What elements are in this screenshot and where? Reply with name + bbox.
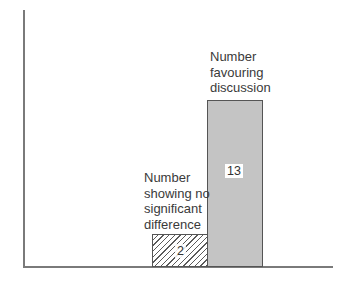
bar-value-no-significant-difference: 2 — [175, 244, 186, 258]
annotation-favouring-discussion: Number favouring discussion — [210, 49, 271, 96]
annotation-line: discussion — [210, 80, 271, 96]
annotation-line: difference — [144, 217, 210, 233]
y-axis — [23, 10, 25, 267]
annotation-line: showing no — [144, 186, 210, 202]
bar-favouring-discussion — [207, 100, 263, 267]
bar-value-favouring-discussion: 13 — [225, 164, 243, 178]
annotation-no-significant-difference: Number showing no significant difference — [144, 170, 210, 232]
annotation-line: significant — [144, 201, 210, 217]
annotation-line: Number — [144, 170, 210, 186]
annotation-line: Number — [210, 49, 271, 65]
annotation-line: favouring — [210, 65, 271, 81]
